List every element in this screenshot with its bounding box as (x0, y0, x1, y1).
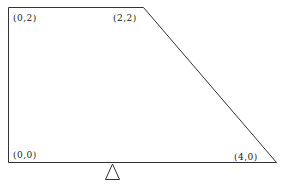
vertex-label-bottom-left: (0,0) (13, 150, 37, 160)
trapezoid-shape (9, 8, 277, 163)
trapezoid-diagram: (0,2) (2,2) (0,0) (4,0) (0, 0, 286, 188)
vertex-label-bottom-right: (4,0) (234, 152, 258, 162)
vertex-label-top-left: (0,2) (13, 13, 37, 23)
vertex-label-top-right: (2,2) (113, 13, 137, 23)
fulcrum-triangle-icon (106, 164, 120, 180)
